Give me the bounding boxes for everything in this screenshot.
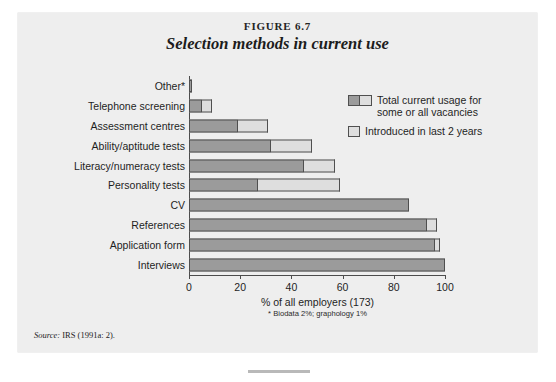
- figure-number: FIGURE 6.7: [18, 20, 537, 32]
- bar-segment-introduced-last-2-years: [271, 139, 312, 152]
- bar-segment-total-current-usage: [189, 199, 409, 212]
- legend-swatch-total-icon: [348, 95, 372, 106]
- bar: [189, 259, 445, 272]
- bar-row: Interviews: [189, 255, 445, 275]
- bar-row: CV: [189, 195, 445, 215]
- bar-row: Application form: [189, 235, 445, 255]
- legend-item-total-current-usage: Total current usage for some or all vaca…: [348, 94, 501, 118]
- bar-segment-total-current-usage: [189, 139, 271, 152]
- category-label: Other*: [155, 81, 185, 92]
- bar: [189, 139, 312, 152]
- bar: [189, 239, 440, 252]
- category-label: Application form: [110, 240, 185, 251]
- x-tick-mark: [445, 275, 446, 279]
- bar: [189, 79, 192, 92]
- bar-segment-introduced-last-2-years: [304, 159, 335, 172]
- chart-legend: Total current usage for some or all vaca…: [348, 94, 501, 144]
- bar: [189, 199, 409, 212]
- x-tick-label: 80: [388, 281, 400, 293]
- source-text: IRS (1991a: 2).: [60, 330, 115, 340]
- category-label: References: [131, 220, 185, 231]
- bar-segment-introduced-last-2-years: [238, 119, 269, 132]
- bar: [189, 99, 212, 112]
- bar-segment-total-current-usage: [189, 99, 202, 112]
- x-tick-label: 60: [337, 281, 349, 293]
- bar-segment-total-current-usage: [189, 79, 192, 92]
- category-label: Personality tests: [108, 180, 185, 191]
- bar: [189, 159, 335, 172]
- category-label: Ability/aptitude tests: [92, 140, 185, 151]
- x-tick-label: 40: [286, 281, 298, 293]
- bar-row: Literacy/numeracy tests: [189, 156, 445, 176]
- x-tick-mark: [189, 275, 190, 279]
- bar-segment-introduced-last-2-years: [435, 239, 440, 252]
- legend-label-total: Total current usage for some or all vaca…: [377, 94, 501, 118]
- bar-segment-total-current-usage: [189, 239, 435, 252]
- bar: [189, 119, 268, 132]
- bar: [189, 179, 340, 192]
- legend-label-introduced: Introduced in last 2 years: [365, 125, 482, 137]
- category-label: Assessment centres: [90, 120, 185, 131]
- bar-segment-introduced-last-2-years: [427, 219, 437, 232]
- bar-segment-total-current-usage: [189, 259, 445, 272]
- legend-swatch-introduced-icon: [348, 126, 360, 137]
- figure-title: Selection methods in current use: [18, 34, 537, 54]
- x-tick-mark: [394, 275, 395, 279]
- bar-row: References: [189, 215, 445, 235]
- category-label: Interviews: [138, 260, 185, 271]
- bar-segment-total-current-usage: [189, 219, 427, 232]
- x-tick-label: 100: [436, 281, 454, 293]
- category-label: CV: [170, 200, 185, 211]
- x-tick-label: 0: [186, 281, 192, 293]
- legend-item-introduced-last-2-years: Introduced in last 2 years: [348, 125, 501, 137]
- category-label: Literacy/numeracy tests: [74, 160, 185, 171]
- x-axis-line: [189, 275, 446, 276]
- bar: [189, 219, 437, 232]
- bar-row: Personality tests: [189, 176, 445, 196]
- bar-segment-introduced-last-2-years: [202, 99, 212, 112]
- bar-segment-total-current-usage: [189, 119, 238, 132]
- figure-panel: FIGURE 6.7 Selection methods in current …: [18, 13, 537, 352]
- x-tick-mark: [240, 275, 241, 279]
- source-label: Source:: [34, 330, 60, 340]
- bar-segment-total-current-usage: [189, 179, 258, 192]
- chart-footnote: * Biodata 2%; graphology 1%: [189, 309, 446, 318]
- bar-segment-total-current-usage: [189, 159, 304, 172]
- source-note: Source: IRS (1991a: 2).: [34, 330, 115, 340]
- category-label: Telephone screening: [88, 101, 185, 112]
- x-axis-title: % of all employers (173): [189, 296, 446, 308]
- bar-segment-introduced-last-2-years: [258, 179, 340, 192]
- bar-row: Other*: [189, 76, 445, 96]
- x-tick-mark: [291, 275, 292, 279]
- bottom-rule: [248, 370, 310, 373]
- x-tick-label: 20: [234, 281, 246, 293]
- x-tick-mark: [343, 275, 344, 279]
